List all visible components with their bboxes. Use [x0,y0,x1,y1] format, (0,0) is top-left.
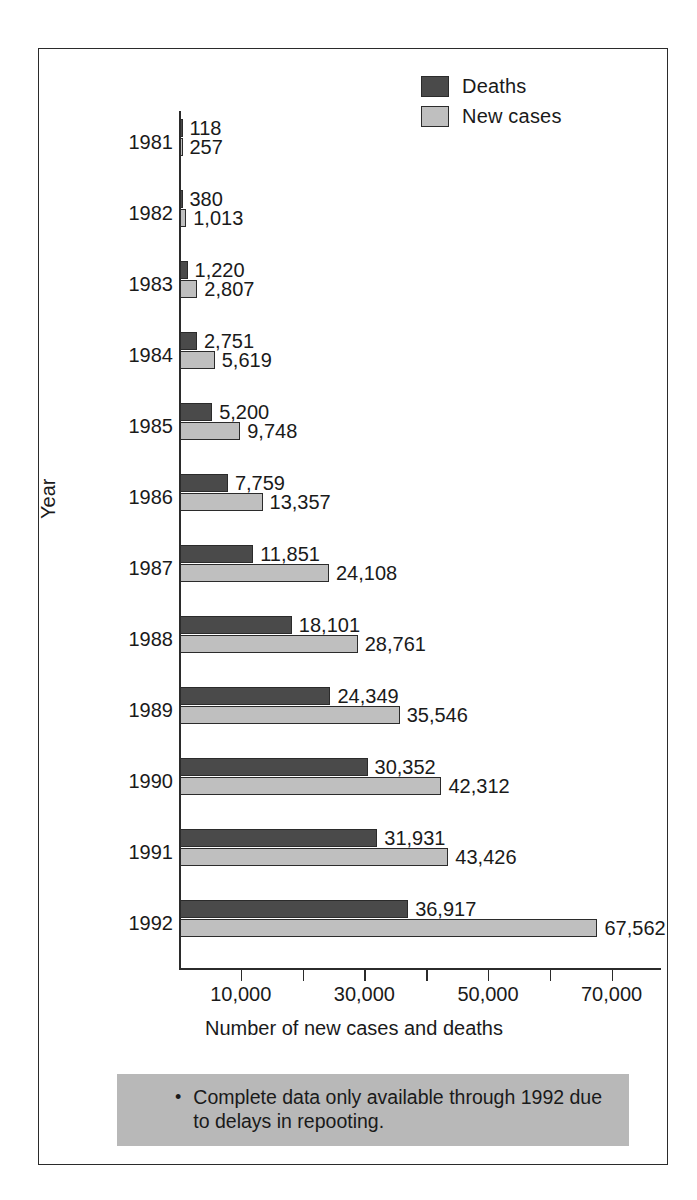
plot-area: 10,00030,00050,00070,000 198111825719823… [39,49,669,1166]
bar-group: 199131,93143,426 [39,827,669,883]
x-axis-tick [550,969,551,981]
bar-cases[interactable] [180,138,183,156]
x-axis-ticks [179,969,661,981]
bar-value-label: 35,546 [407,704,468,727]
bar-deaths[interactable] [180,332,197,350]
year-label: 1988 [39,628,173,651]
x-axis-tick [612,969,613,981]
bar-value-label: 24,108 [336,562,397,585]
footnote-bullet-icon: • [175,1085,181,1133]
x-axis-tick-label: 30,000 [334,983,395,1006]
footnote-text: Complete data only available through 199… [193,1085,615,1133]
bar-cases[interactable] [180,493,263,511]
bar-group: 19867,75913,357 [39,472,669,528]
bar-group: 19855,2009,748 [39,401,669,457]
bar-value-label: 31,931 [384,827,445,850]
bar-deaths[interactable] [180,829,377,847]
bar-cases[interactable] [180,635,358,653]
x-axis-tick [364,969,365,981]
bar-value-label: 257 [190,136,223,159]
x-axis-tick-labels: 10,00030,00050,00070,000 [179,983,679,1013]
year-label: 1989 [39,699,173,722]
bar-deaths[interactable] [180,616,292,634]
bar-group: 198818,10128,761 [39,614,669,670]
bar-deaths[interactable] [180,474,228,492]
bar-value-label: 42,312 [448,775,509,798]
bar-group: 1981118257 [39,117,669,173]
x-axis-tick-label: 70,000 [581,983,642,1006]
bar-cases[interactable] [180,777,441,795]
bar-cases[interactable] [180,422,240,440]
bar-deaths[interactable] [180,687,330,705]
bar-value-label: 43,426 [455,846,516,869]
bar-group: 19823801,013 [39,188,669,244]
bar-group: 198711,85124,108 [39,543,669,599]
bar-value-label: 18,101 [299,614,360,637]
x-axis-tick-label: 10,000 [210,983,271,1006]
year-label: 1983 [39,273,173,296]
bar-group: 198924,34935,546 [39,685,669,741]
x-axis-tick [303,969,304,981]
chart-figure-frame: Deaths New cases 10,00030,00050,00070,00… [38,48,668,1165]
bar-value-label: 1,013 [193,207,243,230]
bar-value-label: 13,357 [270,491,331,514]
bar-deaths[interactable] [180,190,183,208]
year-label: 1991 [39,841,173,864]
bar-value-label: 36,917 [415,898,476,921]
bar-cases[interactable] [180,351,215,369]
bar-value-label: 24,349 [337,685,398,708]
bar-group: 199030,35242,312 [39,756,669,812]
year-label: 1981 [39,131,173,154]
year-label: 1987 [39,557,173,580]
year-label: 1985 [39,415,173,438]
bar-deaths[interactable] [180,403,212,421]
x-axis-tick [241,969,242,981]
bar-group: 19831,2202,807 [39,259,669,315]
bar-group: 19842,7515,619 [39,330,669,386]
y-axis-title: Year [37,479,60,519]
bar-cases[interactable] [180,209,186,227]
bar-value-label: 5,619 [222,349,272,372]
year-label: 1984 [39,344,173,367]
footnote-box: • Complete data only available through 1… [117,1074,629,1146]
bar-cases[interactable] [180,706,400,724]
bar-deaths[interactable] [180,758,368,776]
bar-cases[interactable] [180,280,197,298]
bar-deaths[interactable] [180,119,183,137]
bar-value-label: 9,748 [247,420,297,443]
bar-group: 199236,91767,562 [39,898,669,954]
bar-value-label: 67,562 [604,917,665,940]
bar-value-label: 11,851 [260,543,320,566]
bar-value-label: 2,807 [204,278,254,301]
bar-deaths[interactable] [180,900,408,918]
bar-deaths[interactable] [180,261,188,279]
bar-value-label: 30,352 [375,756,436,779]
x-axis-tick-label: 50,000 [457,983,518,1006]
x-axis-tick [426,969,427,981]
bar-deaths[interactable] [180,545,253,563]
year-label: 1990 [39,770,173,793]
bar-cases[interactable] [180,564,329,582]
bar-cases[interactable] [180,919,597,937]
year-label: 1992 [39,912,173,935]
x-axis-tick [488,969,489,981]
bar-value-label: 28,761 [365,633,426,656]
bar-cases[interactable] [180,848,448,866]
year-label: 1982 [39,202,173,225]
x-axis-title: Number of new cases and deaths [39,1017,669,1040]
